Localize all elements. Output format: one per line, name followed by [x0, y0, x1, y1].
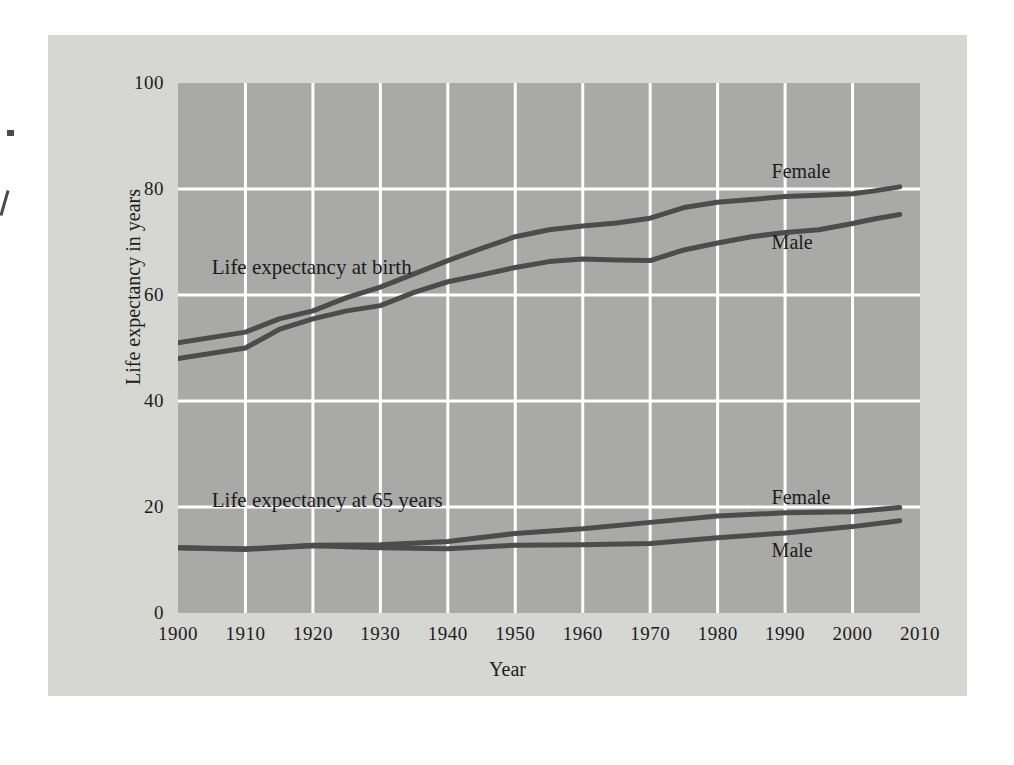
group-annotation-label: Life expectancy at birth [212, 255, 412, 280]
y-axis-label: Life expectancy in years [122, 189, 145, 385]
y-axis-tick-label: 80 [144, 178, 164, 200]
x-axis-tick-label: 2010 [900, 623, 940, 645]
x-axis-tick-label: 2000 [833, 623, 873, 645]
x-axis-tick-label: 1990 [765, 623, 805, 645]
x-axis-tick-label: 1940 [428, 623, 468, 645]
figure-panel: Life expectancy in years Year 0204060801… [48, 35, 967, 696]
x-axis-tick-label: 1900 [158, 623, 198, 645]
x-axis-tick-label: 1980 [698, 623, 738, 645]
x-axis-tick-label: 1910 [225, 623, 265, 645]
y-axis-tick-label: 100 [134, 72, 164, 94]
x-axis-tick-label: 1960 [563, 623, 603, 645]
plot-area: 020406080100 190019101920193019401950196… [178, 83, 920, 613]
series-label-male: Male [772, 231, 813, 254]
series-label-female: Female [772, 160, 831, 183]
y-axis-tick-label: 60 [144, 284, 164, 306]
y-axis-tick-label: 40 [144, 390, 164, 412]
scan-artifact-dot [7, 130, 14, 136]
y-axis-tick-label: 0 [154, 602, 164, 624]
y-axis-tick-label: 20 [144, 496, 164, 518]
x-axis-tick-label: 1970 [630, 623, 670, 645]
x-axis-tick-label: 1920 [293, 623, 333, 645]
page-root: Life expectancy in years Year 0204060801… [0, 0, 1014, 765]
series-label-male: Male [772, 539, 813, 562]
x-axis-label: Year [48, 658, 967, 681]
group-annotation-label: Life expectancy at 65 years [212, 488, 443, 513]
scan-artifact-slash [0, 190, 10, 216]
x-axis-tick-label: 1930 [360, 623, 400, 645]
x-axis-tick-label: 1950 [495, 623, 535, 645]
series-label-female: Female [772, 486, 831, 509]
